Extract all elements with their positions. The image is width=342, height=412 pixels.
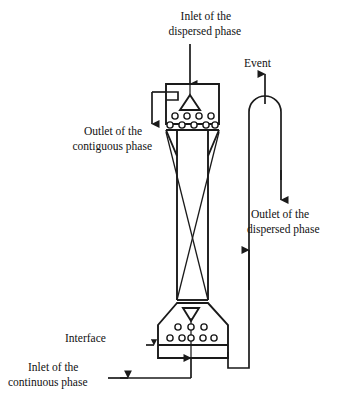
label-inlet-continuous-phase: Inlet of the continuous phase — [8, 361, 88, 389]
label-outlet-contiguous-phase: Outlet of the contiguous phase — [72, 125, 152, 153]
extraction-column-diagram: Inlet of the dispersed phase Event Outle… — [0, 0, 342, 412]
label-outlet-contiguous-line2: contiguous phase — [72, 140, 152, 153]
label-inlet-continuous-line2: continuous phase — [8, 376, 88, 389]
label-inlet-dispersed-phase: Inlet of the dispersed phase — [169, 10, 242, 38]
label-interface: Interface — [65, 332, 106, 344]
label-outlet-dispersed-phase: Outlet of the dispersed phase — [247, 208, 320, 236]
packing-cross-internals — [166, 132, 219, 300]
label-inlet-continuous-line1: Inlet of the — [28, 361, 78, 373]
vent-u-bend-pipe — [249, 96, 281, 186]
label-outlet-contiguous-line1: Outlet of the — [84, 125, 142, 137]
label-outlet-dispersed-line1: Outlet of the — [251, 208, 309, 220]
top-funnel-taper — [166, 130, 219, 156]
diagram-canvas: Inlet of the dispersed phase Event Outle… — [0, 0, 342, 412]
label-event: Event — [244, 57, 272, 69]
label-outlet-dispersed-line2: dispersed phase — [247, 223, 320, 236]
dispersed-phase-return-pipe — [228, 186, 249, 368]
label-inlet-dispersed-line2: dispersed phase — [169, 25, 242, 38]
label-inlet-dispersed-line1: Inlet of the — [181, 10, 231, 22]
